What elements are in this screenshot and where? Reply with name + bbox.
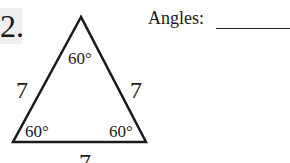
angle-bottom-right: 60° (109, 122, 133, 141)
side-right: 7 (130, 77, 142, 103)
side-left: 7 (16, 77, 28, 103)
angle-top: 60° (68, 49, 92, 68)
triangle-figure: 60° 60° 60° 7 7 7 (0, 0, 290, 163)
angle-bottom-left: 60° (25, 122, 49, 141)
side-bottom: 7 (79, 149, 91, 163)
